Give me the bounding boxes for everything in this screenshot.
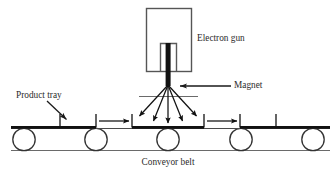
beam-ray-4 (168, 85, 183, 121)
label-product-tray: Product tray (16, 90, 62, 100)
product-tray-leader-line (47, 101, 67, 120)
label-electron-gun: Electron gun (197, 33, 245, 43)
electron-gun-assembly (147, 9, 192, 87)
label-conveyor-belt: Conveyor belt (142, 157, 195, 167)
roller-2 (85, 128, 107, 150)
gun-nozzle-bar (166, 43, 171, 86)
beam-ray-2 (154, 85, 169, 121)
conveyor-belt-assembly (11, 128, 330, 150)
roller-1 (13, 128, 35, 150)
roller-4 (230, 128, 252, 150)
product-trays (11, 114, 330, 127)
roller-5 (302, 128, 324, 150)
electron-beam-rays (140, 85, 197, 123)
electron-beam-conveyor-diagram: Electron gun Magnet Product tray Conveyo… (0, 0, 336, 175)
diagram-canvas: Electron gun Magnet Product tray Conveyo… (0, 0, 336, 175)
roller-3 (157, 128, 179, 150)
label-magnet: Magnet (234, 80, 263, 90)
beam-ray-1 (140, 85, 169, 116)
beam-ray-5 (168, 85, 197, 116)
